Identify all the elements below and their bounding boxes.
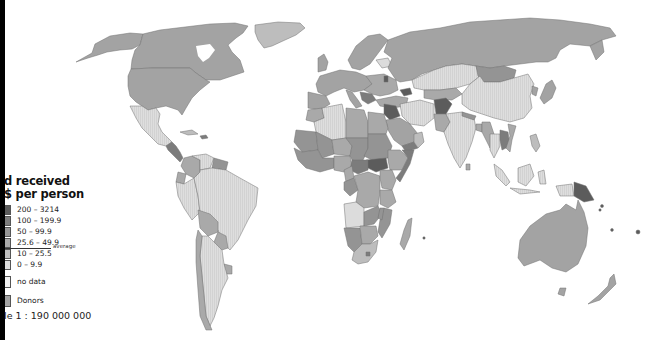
region-sri-lanka[interactable] [466, 164, 470, 170]
region-uk[interactable] [318, 54, 328, 72]
region-central-asia-south[interactable] [424, 88, 462, 100]
legend-label: Donors [17, 296, 44, 306]
legend-label: 50 – 99.9 [17, 227, 52, 237]
legend-label: no data [17, 277, 46, 287]
region-new-zealand[interactable] [588, 274, 616, 304]
legend-item-25-49: 25.6 – 49.9 average [0, 237, 140, 248]
legend-swatch [5, 295, 11, 307]
legend-label: 0 – 9.9 [17, 260, 42, 270]
legend: d received $ per person 200 – 3214 100 –… [0, 175, 140, 308]
region-bangladesh[interactable] [476, 124, 482, 132]
legend-items: 200 – 3214 100 – 199.9 50 – 99.9 25.6 – … [0, 204, 140, 308]
region-tasmania[interactable] [558, 288, 566, 296]
legend-swatch [5, 205, 11, 215]
region-italy[interactable] [346, 90, 362, 108]
region-pacific-island[interactable] [599, 209, 601, 211]
legend-label: 100 – 199.9 [17, 216, 61, 226]
legend-swatch [5, 227, 11, 237]
legend-swatch [5, 238, 11, 248]
region-vanuatu[interactable] [611, 229, 614, 232]
region-fiji[interactable] [636, 230, 640, 234]
region-madagascar[interactable] [400, 218, 412, 250]
region-caucasus[interactable] [400, 88, 412, 96]
region-korea[interactable] [532, 86, 538, 96]
region-angola[interactable] [344, 202, 364, 228]
region-solomon-islands[interactable] [601, 205, 604, 208]
region-philippines[interactable] [530, 134, 540, 152]
region-haiti[interactable] [200, 135, 208, 139]
legend-item-10-25: 10 – 25.5 [0, 248, 140, 259]
region-lesotho[interactable] [366, 252, 370, 256]
region-thailand[interactable] [490, 134, 500, 158]
legend-swatch [5, 216, 11, 226]
region-australia[interactable] [518, 200, 588, 272]
region-papua-new-guinea[interactable] [574, 182, 594, 202]
legend-swatch [5, 249, 11, 259]
map-scale: le 1 : 190 000 000 [4, 310, 91, 321]
legend-item-100-199: 100 – 199.9 [0, 215, 140, 226]
legend-item-200-3214: 200 – 3214 [0, 204, 140, 215]
region-mexico[interactable] [130, 106, 172, 146]
legend-item-donors: Donors [0, 293, 140, 308]
region-dr-congo[interactable] [354, 172, 380, 208]
region-sumatra[interactable] [494, 164, 510, 186]
region-western-europe[interactable] [316, 70, 372, 96]
region-cuba[interactable] [180, 130, 198, 135]
region-java[interactable] [510, 188, 540, 194]
region-libya[interactable] [346, 108, 368, 138]
legend-swatch [5, 260, 11, 270]
region-mauritius[interactable] [423, 237, 425, 239]
region-borneo[interactable] [518, 164, 534, 186]
region-west-sahara-mauritania[interactable] [294, 130, 318, 152]
region-tanzania[interactable] [380, 190, 396, 208]
region-afghanistan[interactable] [434, 98, 452, 114]
region-greenland[interactable] [255, 22, 305, 48]
legend-item-no-data: no data [0, 274, 140, 289]
region-central-america[interactable] [166, 142, 183, 162]
region-uganda-kenya[interactable] [380, 170, 396, 190]
region-japan[interactable] [540, 80, 556, 104]
region-sulawesi[interactable] [538, 170, 546, 184]
legend-item-0-9: 0 – 9.9 [0, 259, 140, 270]
region-moldova[interactable] [384, 76, 388, 82]
legend-label: 10 – 25.5 [17, 249, 52, 259]
legend-swatch [5, 276, 11, 288]
legend-title-line2: $ per person [4, 188, 140, 201]
legend-item-50-99: 50 – 99.9 [0, 226, 140, 237]
legend-label: 200 – 3214 [17, 205, 59, 215]
region-papua-indonesia[interactable] [556, 184, 574, 196]
